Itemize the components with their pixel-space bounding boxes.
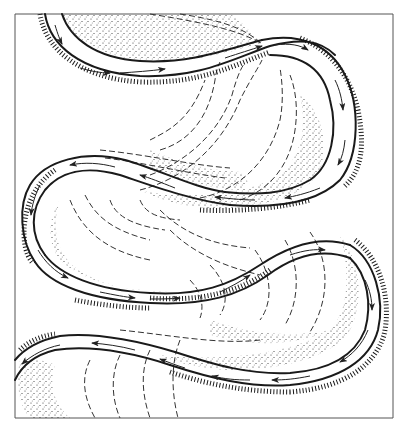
meander-diagram [0, 0, 408, 430]
river-channel [15, 14, 380, 386]
point-bars [18, 14, 359, 418]
